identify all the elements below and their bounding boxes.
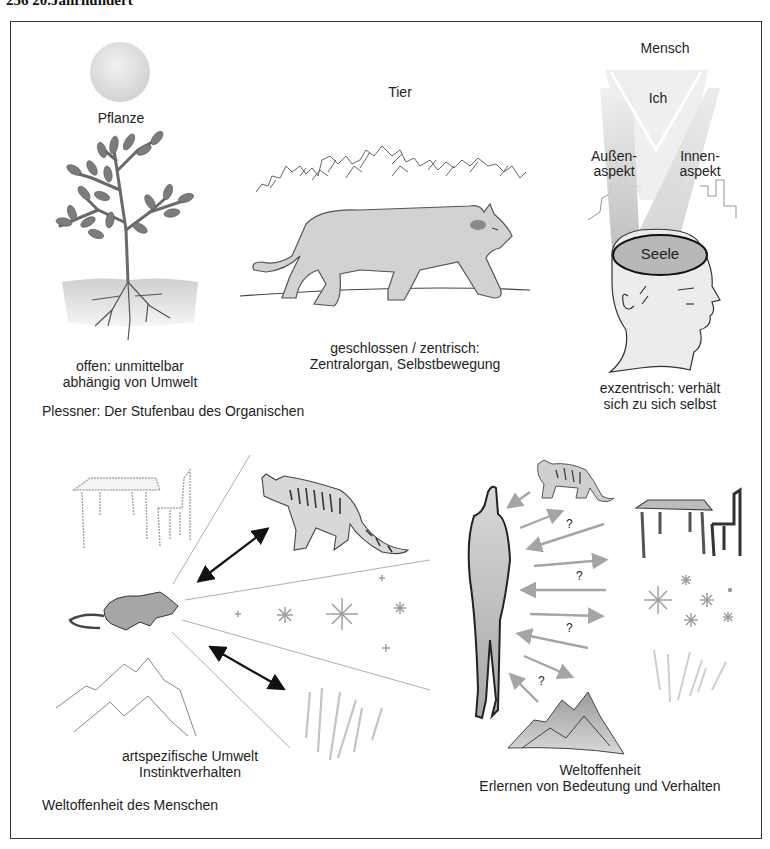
human-silhouette-icon bbox=[469, 487, 510, 718]
human-description-line2: sich zu sich selbst bbox=[580, 396, 740, 412]
inner-aspect-line1: Innen- bbox=[670, 148, 730, 164]
sun-icon bbox=[90, 42, 150, 102]
diagram-graphics bbox=[0, 0, 770, 849]
question-mark: ? bbox=[566, 516, 573, 532]
wheat-icon bbox=[306, 688, 382, 760]
stars-icon-right bbox=[644, 575, 733, 627]
walking-cat-icon bbox=[253, 204, 512, 306]
soil-roots-icon bbox=[62, 278, 198, 340]
animal-title: Tier bbox=[370, 84, 430, 100]
animal-description-line1: geschlossen / zentrisch: bbox=[290, 340, 520, 356]
small-cat-icon bbox=[538, 460, 614, 502]
human-world-line1: Weltoffenheit bbox=[470, 762, 730, 778]
human-world-line2: Erlernen von Bedeutung und Verhalten bbox=[440, 778, 760, 794]
animal-world-line1: artspezifische Umwelt bbox=[80, 748, 300, 764]
double-arrow-icon bbox=[200, 530, 282, 688]
outer-aspect-line1: Außen- bbox=[584, 148, 644, 164]
question-mark: ? bbox=[566, 620, 573, 636]
mountains-icon bbox=[56, 658, 196, 736]
arrows-icon bbox=[510, 492, 606, 702]
inner-aspect-line2: aspekt bbox=[670, 163, 730, 179]
animal-description-line2: Zentralorgan, Selbstbewegung bbox=[290, 356, 520, 372]
soul-label: Seele bbox=[630, 246, 690, 262]
mountains-icon-right bbox=[508, 692, 624, 754]
plant-title: Pflanze bbox=[86, 110, 156, 126]
plant-description-line1: offen: unmittelbar bbox=[40, 358, 220, 374]
plant-description-line2: abhängig von Umwelt bbox=[40, 374, 220, 390]
bushes-icon bbox=[256, 146, 526, 192]
human-description-line1: exzentrisch: verhält bbox=[580, 380, 740, 396]
wheat-icon-right bbox=[654, 650, 726, 702]
tabby-cat-icon bbox=[262, 474, 408, 554]
human-title: Mensch bbox=[630, 40, 700, 56]
outer-aspect-line2: aspekt bbox=[584, 163, 644, 179]
ich-label: Ich bbox=[638, 90, 678, 106]
rat-icon bbox=[70, 592, 178, 630]
bottom-section-caption: Weltoffenheit des Menschen bbox=[42, 797, 218, 813]
top-section-caption: Plessner: Der Stufenbau des Organischen bbox=[42, 403, 304, 419]
stars-icon bbox=[235, 575, 406, 652]
question-mark: ? bbox=[538, 673, 545, 689]
animal-world-line2: Instinktverhalten bbox=[80, 764, 300, 780]
question-mark: ? bbox=[576, 568, 583, 584]
table-chair-icon bbox=[74, 470, 190, 548]
table-chair-icon-dark bbox=[636, 490, 740, 558]
